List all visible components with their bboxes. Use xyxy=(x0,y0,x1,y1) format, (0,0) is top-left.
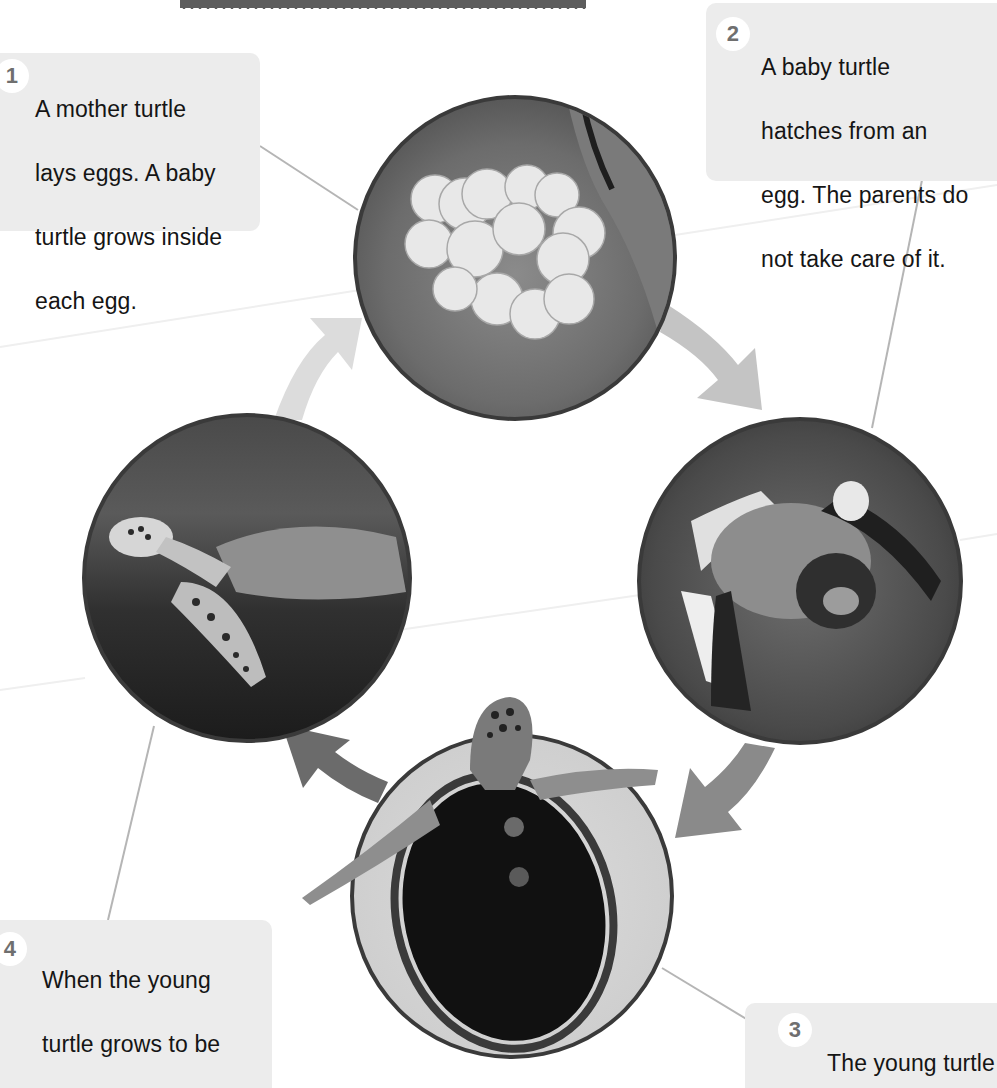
caption-text: The young turtle grows bigger. xyxy=(821,1015,997,1088)
turtle-life-cycle-diagram: 1 A mother turtle lays eggs. A baby turt… xyxy=(0,0,997,1088)
caption-text: When the young turtle grows to be an adu… xyxy=(42,932,267,1088)
caption-stage-2: 2 A baby turtle hatches from an egg. The… xyxy=(706,3,997,181)
caption-text: A baby turtle hatches from an egg. The p… xyxy=(761,19,997,307)
caption-text: A mother turtle lays eggs. A baby turtle… xyxy=(35,61,255,349)
caption-stage-3: 3 The young turtle grows bigger. xyxy=(745,1003,997,1088)
stage-number-badge: 3 xyxy=(778,1013,812,1047)
stage-number-badge: 1 xyxy=(0,59,29,93)
stage-number-badge: 2 xyxy=(716,17,750,51)
caption-stage-4: 4 When the young turtle grows to be an a… xyxy=(0,920,272,1088)
stage-number-badge: 4 xyxy=(0,932,27,966)
caption-stage-1: 1 A mother turtle lays eggs. A baby turt… xyxy=(0,53,260,231)
